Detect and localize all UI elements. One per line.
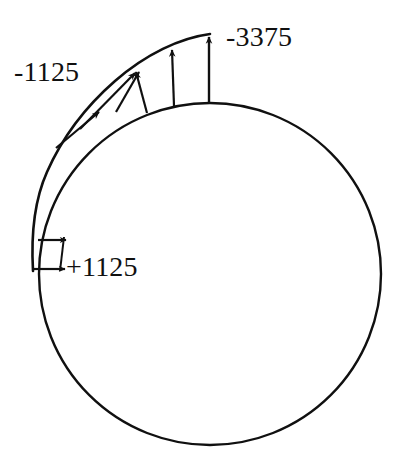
outward-arrow-2 <box>80 73 135 129</box>
figure-container: -1125 -3375 +1125 <box>0 0 397 473</box>
label-mid-left-magnitude: +1125 <box>66 253 138 281</box>
inward-arrow-connector <box>60 237 64 271</box>
label-upper-right-magnitude: -3375 <box>226 23 292 51</box>
outward-arrow-group <box>56 37 209 148</box>
inward-arrow-group <box>33 237 66 271</box>
label-upper-left-magnitude: -1125 <box>14 58 79 86</box>
outward-arrow-4 <box>136 72 147 113</box>
outward-arrow-5 <box>172 50 174 106</box>
